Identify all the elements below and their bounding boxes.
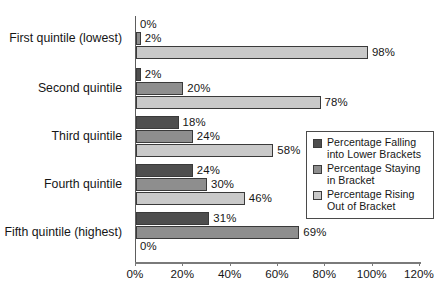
bar[interactable] [136, 96, 321, 109]
x-axis-tick [372, 262, 373, 266]
category-label: Fifth quintile (highest) [0, 225, 130, 239]
bar[interactable] [136, 212, 209, 225]
bar-value-label: 18% [183, 115, 206, 129]
bar-row: 20% [136, 82, 420, 95]
bar-value-label: 58% [277, 143, 300, 157]
x-axis-tick [230, 262, 231, 266]
bar-value-label: 2% [145, 67, 162, 81]
x-axis-tick [324, 262, 325, 266]
legend-item[interactable]: Percentage RisingOut of Bracket [313, 189, 428, 212]
chart-legend: Percentage Fallinginto Lower BracketsPer… [306, 131, 434, 219]
bar-row: 2% [136, 68, 420, 81]
legend-swatch-icon [313, 139, 322, 148]
category-label: Third quintile [0, 129, 130, 143]
x-axis-tick-label: 100% [357, 267, 387, 281]
bar[interactable] [136, 130, 193, 143]
x-axis-tick-label: 120% [404, 267, 434, 281]
x-axis-tick-label: 20% [171, 267, 195, 281]
bar[interactable] [136, 164, 193, 177]
bar-row: 0% [136, 240, 420, 253]
x-axis-tick [277, 262, 278, 266]
bar-value-label: 31% [213, 211, 236, 225]
bar-value-label: 78% [325, 95, 348, 109]
bar[interactable] [136, 116, 179, 129]
bar-row: 78% [136, 96, 420, 109]
category-label: Fourth quintile [0, 177, 130, 191]
bar[interactable] [136, 46, 368, 59]
bar-value-label: 69% [303, 225, 326, 239]
category-label: Second quintile [0, 81, 130, 95]
bar-value-label: 24% [197, 129, 220, 143]
legend-label: Percentage RisingOut of Bracket [327, 189, 414, 212]
bar[interactable] [136, 178, 207, 191]
bar-row: 69% [136, 226, 420, 239]
x-axis-line [135, 262, 421, 264]
x-axis-tick-label: 40% [218, 267, 242, 281]
bar-row: 18% [136, 116, 420, 129]
bar-value-label: 20% [187, 81, 210, 95]
bar[interactable] [136, 68, 141, 81]
bar[interactable] [136, 192, 245, 205]
x-axis-tick [182, 262, 183, 266]
bar-row: 98% [136, 46, 420, 59]
bar-value-label: 2% [145, 31, 162, 45]
bar-value-label: 30% [211, 177, 234, 191]
legend-swatch-icon [313, 165, 322, 174]
bar[interactable] [136, 144, 273, 157]
bar-row: 2% [136, 32, 420, 45]
bar-value-label: 0% [140, 17, 157, 31]
bar-chart: 0%20%40%60%80%100%120% First quintile (l… [0, 0, 444, 289]
x-axis-tick-label: 0% [127, 267, 144, 281]
bar[interactable] [136, 32, 141, 45]
x-axis-tick-label: 80% [313, 267, 337, 281]
x-axis-tick-label: 60% [265, 267, 289, 281]
bar[interactable] [136, 226, 299, 239]
legend-label: Percentage Fallinginto Lower Brackets [327, 137, 421, 160]
legend-swatch-icon [313, 191, 322, 200]
legend-item[interactable]: Percentage Fallinginto Lower Brackets [313, 137, 428, 160]
legend-label: Percentage Stayingin Bracket [327, 163, 420, 186]
bar[interactable] [136, 82, 183, 95]
x-axis-tick [419, 262, 420, 266]
bar-value-label: 46% [249, 191, 272, 205]
x-axis-tick [135, 262, 136, 266]
category-label: First quintile (lowest) [0, 31, 130, 45]
bar-value-label: 0% [140, 239, 157, 253]
bar-group: 2%20%78% [136, 68, 420, 110]
bar-value-label: 24% [197, 163, 220, 177]
legend-item[interactable]: Percentage Stayingin Bracket [313, 163, 428, 186]
bar-row: 0% [136, 18, 420, 31]
bar-value-label: 98% [372, 45, 395, 59]
bar-group: 0%2%98% [136, 18, 420, 60]
